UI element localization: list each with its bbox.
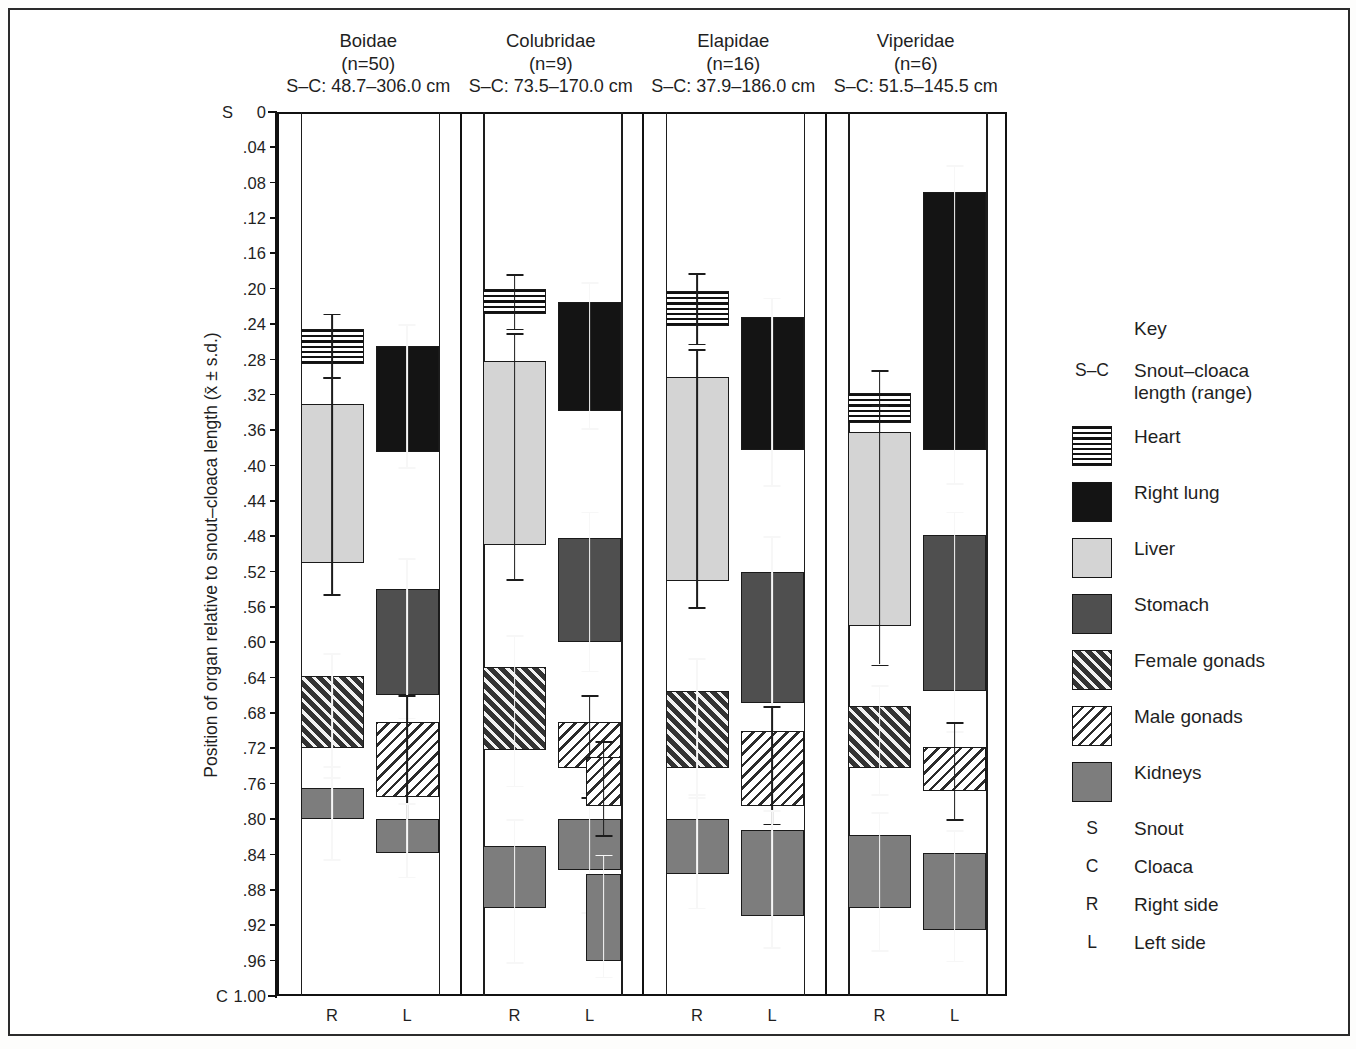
- error-bar-cap: [689, 273, 706, 275]
- error-bar-cap: [581, 512, 598, 514]
- y-axis-tick-label: .44: [243, 491, 266, 510]
- error-bar: [331, 314, 333, 378]
- error-bar-cap: [689, 658, 706, 660]
- figure-page: Position of organ relative to snout–cloa…: [0, 0, 1356, 1049]
- y-axis-tick: [270, 146, 277, 148]
- y-axis-label: Position of organ relative to snout–cloa…: [196, 112, 226, 998]
- legend-label: Female gonads: [1134, 650, 1265, 672]
- error-bar-cap: [871, 665, 888, 667]
- error-bar: [603, 855, 605, 977]
- legend-label: Stomach: [1134, 594, 1209, 616]
- error-bar-cap: [764, 706, 781, 708]
- group-separator: [1005, 112, 1007, 996]
- error-bar-cap: [946, 722, 963, 724]
- error-bar: [331, 377, 333, 594]
- group-separator: [825, 112, 827, 996]
- error-bar-cap: [946, 830, 963, 832]
- error-bar: [331, 653, 333, 777]
- y-axis-tick: [270, 217, 277, 219]
- legend-glyph: S: [1072, 818, 1112, 839]
- error-bar: [954, 830, 956, 961]
- y-axis-tick: [270, 288, 277, 290]
- y-axis-tick-label: .12: [243, 209, 266, 228]
- y-axis-tick: [270, 571, 277, 573]
- legend-swatch-kidney: [1072, 762, 1112, 802]
- y-axis-tick: [270, 394, 277, 396]
- column-rule: [804, 112, 806, 996]
- group-family-name: Elapidae: [651, 30, 815, 53]
- legend-entry: Male gonads: [1058, 706, 1328, 746]
- error-bar: [771, 298, 773, 485]
- y-axis-tick: [270, 465, 277, 467]
- y-axis-tick-label: .20: [243, 279, 266, 298]
- group-sc-range: S–C: 73.5–170.0 cm: [469, 75, 633, 98]
- error-bar: [406, 695, 408, 819]
- error-bar-cap: [689, 344, 706, 346]
- y-axis-tick-label: .76: [243, 774, 266, 793]
- group-separator: [642, 112, 644, 996]
- error-bar-cap: [324, 594, 341, 596]
- error-bar-cap: [764, 536, 781, 538]
- y-axis-tick-label: 0: [257, 103, 266, 122]
- legend-glyph: R: [1072, 894, 1112, 915]
- group-sample-size: (n=6): [834, 53, 998, 76]
- error-bar: [589, 512, 591, 671]
- y-axis-tick: [270, 960, 277, 962]
- error-bar: [879, 405, 881, 664]
- legend-glyph: S–C: [1072, 360, 1112, 381]
- legend-entry: Kidneys: [1058, 762, 1328, 802]
- legend-entry: Right lung: [1058, 482, 1328, 522]
- column-rule: [986, 112, 988, 996]
- y-axis-tick-label: .72: [243, 739, 266, 758]
- legend-label: Cloaca: [1134, 856, 1193, 878]
- error-bar: [589, 282, 591, 429]
- error-bar-cap: [946, 819, 963, 821]
- error-bar-cap: [506, 333, 523, 335]
- legend-entry: SSnout: [1058, 818, 1328, 840]
- y-axis-tick-label: .16: [243, 244, 266, 263]
- error-bar-cap: [324, 377, 341, 379]
- legend-title: Key: [1134, 318, 1328, 340]
- error-bar: [771, 706, 773, 824]
- error-bar-cap: [689, 349, 706, 351]
- error-bar: [954, 722, 956, 819]
- y-axis-tick-label: .36: [243, 421, 266, 440]
- error-bar-cap: [506, 786, 523, 788]
- error-bar-cap: [581, 671, 598, 673]
- legend-label: Male gonads: [1134, 706, 1243, 728]
- y-axis-tick: [270, 712, 277, 714]
- x-axis-label-r: R: [509, 1006, 521, 1025]
- axis-endcap-snout: S: [222, 103, 233, 122]
- legend-entry: LLeft side: [1058, 932, 1328, 954]
- error-bar-cap: [399, 558, 416, 560]
- error-bar-cap: [595, 741, 612, 743]
- error-bar-cap: [324, 766, 341, 768]
- column-rule: [621, 112, 623, 996]
- legend-entry: CCloaca: [1058, 856, 1328, 878]
- legend-label: Heart: [1134, 426, 1180, 448]
- legend-swatch-heart: [1072, 426, 1112, 466]
- y-axis-tick: [270, 818, 277, 820]
- error-bar: [696, 794, 698, 907]
- error-bar-cap: [506, 819, 523, 821]
- error-bar: [879, 812, 881, 950]
- y-axis-tick-label: .24: [243, 315, 266, 334]
- error-bar-cap: [399, 877, 416, 879]
- group-sample-size: (n=9): [469, 53, 633, 76]
- legend-label: Snout–cloacalength (range): [1134, 360, 1252, 405]
- y-axis-tick-label: .68: [243, 704, 266, 723]
- legend-entry: Heart: [1058, 426, 1328, 466]
- group-sc-range: S–C: 48.7–306.0 cm: [286, 75, 450, 98]
- legend-label: Right side: [1134, 894, 1219, 916]
- error-bar-cap: [595, 855, 612, 857]
- error-bar-cap: [946, 961, 963, 963]
- group-header-colubridae: Colubridae(n=9)S–C: 73.5–170.0 cm: [469, 30, 633, 98]
- y-axis-tick: [270, 429, 277, 431]
- y-axis-tick: [270, 500, 277, 502]
- error-bar-cap: [871, 794, 888, 796]
- y-axis-tick: [270, 783, 277, 785]
- error-bar-cap: [399, 324, 416, 326]
- axis-endcap-cloaca: C: [216, 987, 228, 1006]
- error-bar-cap: [764, 485, 781, 487]
- y-axis-tick: [270, 747, 277, 749]
